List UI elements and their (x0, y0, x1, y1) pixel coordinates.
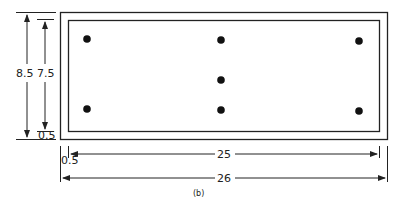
label-bottom-offset: 0.5 (38, 129, 56, 142)
outer-plate (61, 13, 388, 140)
plate-diagram: 8.5 7.5 0.5 25 0.5 26 (b) (0, 0, 402, 205)
bolt-icon (217, 76, 225, 84)
bolt-icon (83, 105, 91, 113)
figure-caption: (b) (193, 189, 204, 198)
bolt-icon (83, 35, 91, 43)
bolt-icon (217, 36, 225, 44)
label-inner-height: 7.5 (37, 67, 55, 80)
bolt-icon (217, 106, 225, 114)
label-outer-height: 8.5 (16, 67, 34, 80)
bolt-group (83, 35, 363, 115)
label-left-offset: 0.5 (61, 154, 79, 167)
label-outer-width: 26 (217, 172, 231, 185)
bolt-icon (355, 107, 363, 115)
label-inner-width: 25 (217, 148, 231, 161)
bolt-icon (355, 37, 363, 45)
inner-plate (69, 21, 380, 132)
